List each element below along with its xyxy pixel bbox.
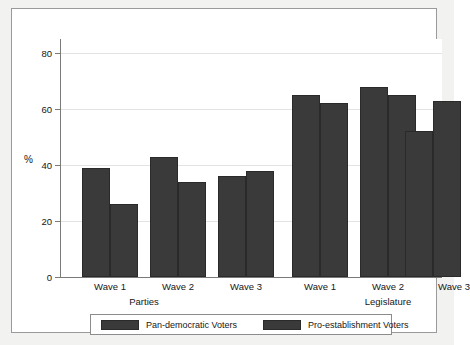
x-tick-label-parties-wave3: Wave 3 (230, 281, 262, 292)
legend-swatch-pro-establishment (263, 320, 301, 330)
bar-legislature-wave3-pro-establishment (433, 101, 461, 277)
plot-overlay (60, 39, 442, 277)
chart-legend: Pan-democratic Voters Pro-establishment … (90, 314, 392, 335)
y-tick-label-20: 20 (41, 216, 52, 227)
group-label-legislature: Legislature (365, 296, 411, 307)
legend-item-pan-democratic: Pan-democratic Voters (101, 315, 237, 334)
x-tick-label-parties-wave1: Wave 1 (94, 281, 126, 292)
bar-legislature-wave3-pan-democratic (405, 131, 433, 277)
y-tick-label-80: 80 (41, 48, 52, 59)
y-tick-label-60: 60 (41, 104, 52, 115)
group-label-parties: Parties (129, 296, 159, 307)
y-tick-mark-0 (55, 277, 60, 278)
legend-label-pro-establishment: Pro-establishment Voters (308, 320, 409, 330)
y-axis-title: % (24, 154, 33, 165)
y-tick-label-40: 40 (41, 160, 52, 171)
legend-swatch-pan-democratic (101, 320, 139, 330)
chart-frame: 80 60 40 20 0 % (11, 8, 437, 333)
legend-label-pan-democratic: Pan-democratic Voters (146, 320, 237, 330)
x-tick-label-legislature-wave2: Wave 2 (372, 281, 404, 292)
legend-item-pro-establishment: Pro-establishment Voters (263, 315, 409, 334)
y-axis-labels: 80 60 40 20 0 % (12, 9, 60, 277)
x-tick-label-legislature-wave3: Wave 3 (438, 281, 470, 292)
x-axis-line (60, 277, 442, 278)
x-tick-label-parties-wave2: Wave 2 (162, 281, 194, 292)
y-tick-label-0: 0 (47, 272, 52, 283)
x-tick-label-legislature-wave1: Wave 1 (304, 281, 336, 292)
